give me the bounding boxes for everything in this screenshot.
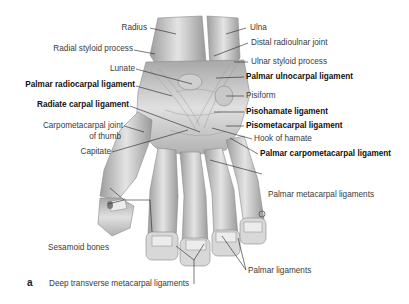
label-lunate: Lunate <box>110 64 135 74</box>
label-ulna: Ulna <box>250 23 267 33</box>
label-hook-of-hamate: Hook of hamate <box>254 134 312 144</box>
label-radiate-carpal-ligament: Radiate carpal ligament <box>37 100 129 110</box>
anatomy-figure: Radius Radial styloid process Lunate Pal… <box>0 0 409 304</box>
label-deep-transverse-metacarpal-ligaments: Deep transverse metacarpal ligaments <box>49 279 189 289</box>
label-carpometacarpal-joint-of-thumb: Carpometacarpal joint <box>43 121 123 131</box>
lunate-bone <box>178 74 202 90</box>
panel-letter: a <box>27 277 33 288</box>
label-palmar-metacarpal-ligaments: Palmar metacarpal ligaments <box>268 190 374 200</box>
metacarpal-2 <box>148 148 178 240</box>
label-distal-radioulnar-joint: Distal radioulnar joint <box>251 38 327 48</box>
label-pisohamate-ligament: Pisohamate ligament <box>246 107 328 117</box>
label-radius: Radius <box>122 23 148 33</box>
label-carpometacarpal-joint-of-thumb-line2: of thumb <box>89 132 121 142</box>
label-pisometacarpal-ligament: Pisometacarpal ligament <box>246 121 342 131</box>
label-palmar-ligaments: Palmar ligaments <box>248 266 311 276</box>
label-palmar-ulnocarpal-ligament: Palmar ulnocarpal ligament <box>246 72 353 82</box>
label-palmar-carpometacarpal-ligament: Palmar carpometacarpal ligament <box>260 149 391 159</box>
label-ulnar-styloid-process: Ulnar styloid process <box>251 57 327 67</box>
label-sesamoid-bones: Sesamoid bones <box>48 243 109 253</box>
label-pisiform: Pisiform <box>246 91 276 101</box>
sesamoid-bone <box>107 201 113 209</box>
label-radial-styloid-process: Radial styloid process <box>53 44 133 54</box>
label-capitate: Capitate <box>81 147 112 157</box>
metacarpal-3 <box>180 152 208 246</box>
label-palmar-radiocarpal-ligament: Palmar radiocarpal ligament <box>25 80 135 90</box>
